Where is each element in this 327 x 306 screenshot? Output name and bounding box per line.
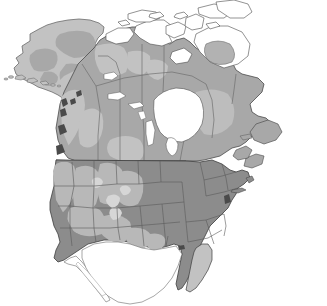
north-america-map[interactable] <box>0 0 327 306</box>
map-figure: High Moderate Low Lowest Absent <box>0 0 327 306</box>
